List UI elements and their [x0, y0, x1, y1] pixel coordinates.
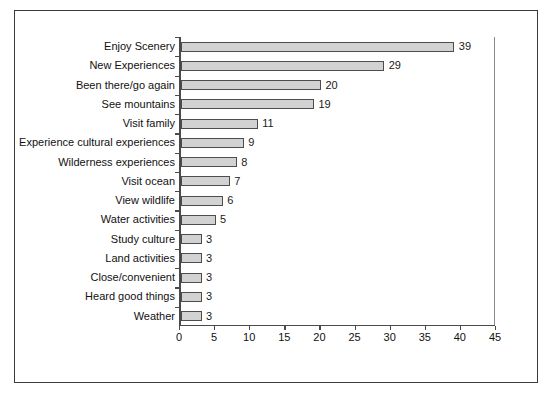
- x-axis-tick-label: 5: [211, 331, 217, 343]
- category-label: See mountains: [15, 95, 175, 114]
- category-label: Enjoy Scenery: [15, 37, 175, 56]
- chart-frame: Enjoy SceneryNew ExperiencesBeen there/g…: [14, 10, 538, 383]
- category-label: Close/convenient: [15, 268, 175, 287]
- category-label: Weather: [15, 307, 175, 326]
- category-label: Land activities: [15, 249, 175, 268]
- x-axis-tick-label: 35: [419, 331, 431, 343]
- category-label: Visit ocean: [15, 172, 175, 191]
- category-label: Visit family: [15, 114, 175, 133]
- x-axis-tick-label: 40: [454, 331, 466, 343]
- category-label: Wilderness experiences: [15, 153, 175, 172]
- x-axis-tick-label: 15: [278, 331, 290, 343]
- category-label: Experience cultural experiences: [15, 133, 175, 152]
- category-label: Water activities: [15, 210, 175, 229]
- value-axis-labels: 051015202530354045: [179, 11, 495, 351]
- x-axis-tick-label: 45: [489, 331, 501, 343]
- category-label: View wildlife: [15, 191, 175, 210]
- category-label: Study culture: [15, 230, 175, 249]
- category-label: Been there/go again: [15, 76, 175, 95]
- x-axis-tick-label: 25: [348, 331, 360, 343]
- category-label: New Experiences: [15, 56, 175, 75]
- x-axis-tick: [495, 326, 496, 330]
- x-axis-tick-label: 10: [243, 331, 255, 343]
- x-axis-tick-label: 30: [384, 331, 396, 343]
- category-label: Heard good things: [15, 287, 175, 306]
- x-axis-tick-label: 0: [176, 331, 182, 343]
- x-axis-tick-label: 20: [313, 331, 325, 343]
- category-axis-labels: Enjoy SceneryNew ExperiencesBeen there/g…: [15, 37, 175, 326]
